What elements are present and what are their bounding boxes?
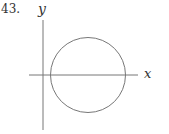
diagram-canvas (0, 0, 169, 134)
